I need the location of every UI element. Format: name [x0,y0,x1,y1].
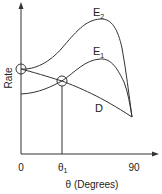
curve-e1 [21,59,132,117]
rate-vs-angle-diagram: E2 E1 D Rate 0 θ1 90 θ (Degrees) [0,0,162,194]
label-e1: E1 [93,45,104,59]
label-e2: E2 [93,6,104,20]
curve-e2 [21,19,132,117]
curve-d [21,69,132,117]
tick-theta1: θ1 [58,162,68,174]
x-axis-arrow-icon [152,152,159,157]
label-d: D [95,102,103,114]
y-axis-label: Rate [3,67,14,89]
x-axis-label: θ (Degrees) [66,179,119,190]
tick-0: 0 [18,162,24,173]
y-axis-arrow-icon [19,2,24,9]
tick-90: 90 [128,162,140,173]
